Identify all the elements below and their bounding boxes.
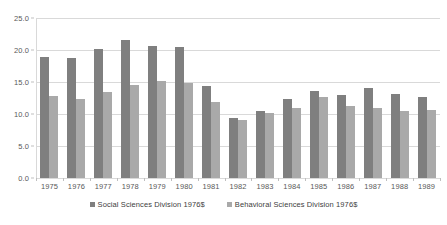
bar-1988-series1[interactable] bbox=[391, 94, 400, 178]
x-axis-tick-label: 1981 bbox=[198, 178, 225, 196]
x-axis-tick-label: 1982 bbox=[225, 178, 252, 196]
bar-group bbox=[90, 18, 117, 178]
x-axis-tick-mark bbox=[332, 178, 333, 181]
bar-group bbox=[198, 18, 225, 178]
bar-1986-series2[interactable] bbox=[346, 106, 355, 178]
bar-1976-series2[interactable] bbox=[76, 99, 85, 178]
y-axis-tick-mark bbox=[31, 18, 34, 19]
y-axis-tick-label: 0.0 bbox=[18, 174, 29, 183]
y-axis-tick-mark bbox=[31, 146, 34, 147]
bar-1979-series1[interactable] bbox=[148, 46, 157, 178]
x-axis-tick-mark bbox=[305, 178, 306, 181]
x-axis-tick-label: 1978 bbox=[117, 178, 144, 196]
y-axis-tick-mark bbox=[31, 82, 34, 83]
x-axis-tick-label: 1976 bbox=[63, 178, 90, 196]
y-axis-tick-label: 25.0 bbox=[14, 14, 29, 23]
bar-1978-series1[interactable] bbox=[121, 40, 130, 178]
bar-1985-series2[interactable] bbox=[319, 97, 328, 178]
bar-group bbox=[332, 18, 359, 178]
bar-group bbox=[413, 18, 440, 178]
x-axis-tick-mark bbox=[117, 178, 118, 181]
x-axis-tick-label: 1985 bbox=[305, 178, 332, 196]
bar-1978-series2[interactable] bbox=[130, 85, 139, 178]
bar-1984-series2[interactable] bbox=[292, 108, 301, 178]
bar-1980-series1[interactable] bbox=[175, 47, 184, 178]
bar-1989-series2[interactable] bbox=[427, 110, 436, 178]
legend-swatch-icon bbox=[90, 202, 95, 207]
x-axis-tick-mark bbox=[386, 178, 387, 181]
bar-1988-series2[interactable] bbox=[400, 111, 409, 178]
y-axis-tick-label: 5.0 bbox=[18, 142, 29, 151]
y-axis-tick-mark bbox=[31, 50, 34, 51]
bar-groups bbox=[36, 18, 440, 178]
y-axis-tick-label: 10.0 bbox=[14, 110, 29, 119]
bar-1983-series1[interactable] bbox=[256, 111, 265, 178]
bar-1983-series2[interactable] bbox=[265, 113, 274, 178]
bar-1976-series1[interactable] bbox=[67, 58, 76, 178]
x-axis-tick-mark bbox=[278, 178, 279, 181]
x-axis-tick-mark bbox=[225, 178, 226, 181]
bar-1979-series2[interactable] bbox=[157, 81, 166, 178]
bar-1986-series1[interactable] bbox=[337, 95, 346, 178]
bar-chart: 0.05.010.015.020.025.0 19751976197719781… bbox=[0, 0, 447, 225]
legend-label: Behavioral Sciences Division 1976$ bbox=[235, 200, 358, 209]
bar-1981-series1[interactable] bbox=[202, 86, 211, 178]
bar-group bbox=[171, 18, 198, 178]
x-axis-tick-label: 1977 bbox=[90, 178, 117, 196]
bar-1989-series1[interactable] bbox=[418, 97, 427, 178]
y-axis-tick-label: 15.0 bbox=[14, 78, 29, 87]
x-axis-tick-mark bbox=[90, 178, 91, 181]
x-axis-tick-mark bbox=[359, 178, 360, 181]
bar-1982-series2[interactable] bbox=[238, 120, 247, 178]
x-axis-tick-mark bbox=[413, 178, 414, 181]
bar-group bbox=[144, 18, 171, 178]
x-axis-tick-mark bbox=[171, 178, 172, 181]
bar-group bbox=[225, 18, 252, 178]
y-axis-tick-mark bbox=[31, 114, 34, 115]
bar-1980-series2[interactable] bbox=[184, 83, 193, 178]
bar-1977-series1[interactable] bbox=[94, 49, 103, 178]
x-axis-tick-label: 1984 bbox=[278, 178, 305, 196]
x-axis-tick-label: 1975 bbox=[36, 178, 63, 196]
bar-1981-series2[interactable] bbox=[211, 102, 220, 178]
bar-1985-series1[interactable] bbox=[310, 91, 319, 178]
x-axis-tick-label: 1989 bbox=[413, 178, 440, 196]
bar-group bbox=[117, 18, 144, 178]
bar-group bbox=[36, 18, 63, 178]
legend-label: Social Sciences Division 1976$ bbox=[98, 200, 205, 209]
bar-group bbox=[386, 18, 413, 178]
x-axis-tick-label: 1986 bbox=[332, 178, 359, 196]
plot-area bbox=[36, 18, 440, 178]
legend-swatch-icon bbox=[227, 202, 232, 207]
legend-item-2[interactable]: Behavioral Sciences Division 1976$ bbox=[227, 200, 358, 209]
x-axis-tick-mark bbox=[36, 178, 37, 181]
x-axis-tick-mark bbox=[198, 178, 199, 181]
x-axis-tick-mark bbox=[440, 178, 441, 181]
x-axis-tick-label: 1980 bbox=[171, 178, 198, 196]
bar-group bbox=[63, 18, 90, 178]
x-axis-tick-mark bbox=[63, 178, 64, 181]
bar-1977-series2[interactable] bbox=[103, 92, 112, 178]
y-axis-tick-label: 20.0 bbox=[14, 46, 29, 55]
x-axis-tick-mark bbox=[144, 178, 145, 181]
y-axis-tick-mark bbox=[31, 178, 34, 179]
x-axis-tick-label: 1983 bbox=[252, 178, 279, 196]
x-axis-tick-label: 1979 bbox=[144, 178, 171, 196]
bar-1987-series2[interactable] bbox=[373, 108, 382, 178]
x-axis-tick-label: 1987 bbox=[359, 178, 386, 196]
bar-1987-series1[interactable] bbox=[364, 88, 373, 178]
legend-item-1[interactable]: Social Sciences Division 1976$ bbox=[90, 200, 205, 209]
x-axis: 1975197619771978197919801981198219831984… bbox=[36, 178, 440, 196]
bar-group bbox=[305, 18, 332, 178]
bar-group bbox=[278, 18, 305, 178]
x-axis-tick-label: 1988 bbox=[386, 178, 413, 196]
bar-1982-series1[interactable] bbox=[229, 118, 238, 178]
bar-group bbox=[359, 18, 386, 178]
y-axis: 0.05.010.015.020.025.0 bbox=[0, 18, 34, 178]
bar-1975-series2[interactable] bbox=[49, 96, 58, 178]
bar-1975-series1[interactable] bbox=[40, 57, 49, 178]
chart-legend: Social Sciences Division 1976$Behavioral… bbox=[0, 200, 447, 209]
x-axis-tick-mark bbox=[251, 178, 252, 181]
bar-group bbox=[252, 18, 279, 178]
bar-1984-series1[interactable] bbox=[283, 99, 292, 178]
